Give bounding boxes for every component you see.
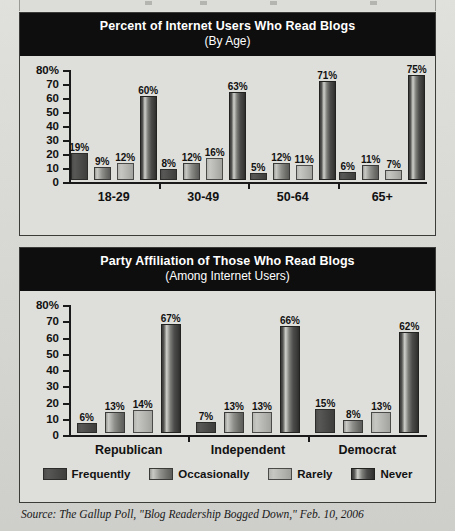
y-axis-tick xyxy=(63,321,70,323)
plot-area-age: 01020304050607080%19%9%12%60%18-298%12%1… xyxy=(20,56,435,234)
y-axis-label: 80% xyxy=(20,65,59,75)
bar-occasionally-30-49 xyxy=(183,163,200,180)
bar-value-label: 75% xyxy=(402,64,431,75)
legend-label: Occasionally xyxy=(178,468,249,480)
chart-subtitle-age: (By Age) xyxy=(24,34,431,49)
y-axis-tick xyxy=(63,98,70,100)
bar-occasionally-18-29 xyxy=(94,167,111,180)
bar-frequently-independent xyxy=(196,422,216,433)
bar-frequently-democrat xyxy=(315,409,335,433)
bar-rarely-50-64 xyxy=(296,165,313,180)
bar-occasionally-50-64 xyxy=(273,163,290,180)
bar-value-label: 11% xyxy=(290,154,319,165)
y-axis-tick xyxy=(63,182,70,184)
category-label-independent: Independent xyxy=(188,443,307,457)
bar-value-label: 14% xyxy=(127,399,159,410)
y-axis-tick xyxy=(63,154,70,156)
bar-value-label: 63% xyxy=(223,81,252,92)
y-axis-label: 60 xyxy=(20,333,59,343)
y-axis-label: 30 xyxy=(20,135,59,145)
bar-value-label: 7% xyxy=(379,159,408,170)
legend-item-frequently: Frequently xyxy=(43,468,131,480)
y-axis-tick xyxy=(63,126,70,128)
light-gray-swatch xyxy=(268,468,292,480)
y-axis-tick xyxy=(63,435,70,437)
bar-frequently-65- xyxy=(339,172,356,180)
bar-frequently-50-64 xyxy=(250,173,267,180)
bar-value-label: 60% xyxy=(134,85,163,96)
chart-subtitle-party: (Among Internet Users) xyxy=(24,269,431,284)
bar-value-label: 71% xyxy=(313,70,342,81)
x-axis-tick xyxy=(338,184,340,189)
bar-occasionally-independent xyxy=(224,412,244,433)
y-axis-label: 0 xyxy=(20,430,59,440)
bar-occasionally-republican xyxy=(105,412,125,433)
category-label-18-29: 18-29 xyxy=(69,190,159,204)
bar-value-label: 67% xyxy=(155,313,187,324)
y-axis-label: 50 xyxy=(20,349,59,359)
chart-title-party: Party Affiliation of Those Who Read Blog… xyxy=(24,254,431,269)
bar-value-label: 62% xyxy=(393,321,425,332)
y-axis-label: 10 xyxy=(20,163,59,173)
legend-label: Never xyxy=(380,468,412,480)
y-axis-label: 40 xyxy=(20,121,59,131)
x-axis-tick xyxy=(308,437,310,442)
bar-rarely-independent xyxy=(252,412,272,433)
y-axis-label: 30 xyxy=(20,381,59,391)
chart-title-age: Percent of Internet Users Who Read Blogs xyxy=(24,19,431,34)
bar-occasionally-65- xyxy=(362,165,379,180)
legend-item-rarely: Rarely xyxy=(268,468,332,480)
dark-solid-swatch xyxy=(43,468,67,480)
y-axis-label: 70 xyxy=(20,79,59,89)
bar-rarely-republican xyxy=(133,410,153,433)
category-label-30-49: 30-49 xyxy=(159,190,249,204)
legend-label: Rarely xyxy=(297,468,332,480)
y-axis-label: 40 xyxy=(20,365,59,375)
chart-title-bar-age: Percent of Internet Users Who Read Blogs… xyxy=(20,13,435,56)
bar-frequently-18-29 xyxy=(71,153,88,180)
chart-title-bar-party: Party Affiliation of Those Who Read Blog… xyxy=(20,248,435,291)
y-axis-tick xyxy=(63,168,70,170)
category-label-republican: Republican xyxy=(69,443,188,457)
bar-rarely-30-49 xyxy=(206,158,223,180)
y-axis-tick xyxy=(63,403,70,405)
y-axis-tick xyxy=(63,84,70,86)
bar-frequently-republican xyxy=(77,423,97,433)
x-axis-tick xyxy=(248,184,250,189)
chart-legend: FrequentlyOccasionallyRarelyNever xyxy=(19,468,436,480)
y-axis-label: 60 xyxy=(20,93,59,103)
bar-value-label: 16% xyxy=(200,147,229,158)
bar-value-label: 66% xyxy=(274,315,306,326)
axes-age: 01020304050607080%19%9%12%60%18-298%12%1… xyxy=(20,56,435,234)
bar-rarely-democrat xyxy=(371,412,391,433)
x-axis-line xyxy=(69,435,427,437)
bar-rarely-65- xyxy=(385,170,402,180)
y-axis-label: 50 xyxy=(20,107,59,117)
y-axis-tick xyxy=(63,370,70,372)
category-label-65-: 65+ xyxy=(338,190,428,204)
y-axis-tick xyxy=(63,386,70,388)
chart-panel-age: Percent of Internet Users Who Read Blogs… xyxy=(19,12,436,236)
bar-never-independent xyxy=(280,326,300,433)
legend-label: Frequently xyxy=(72,468,131,480)
bar-frequently-30-49 xyxy=(160,169,177,180)
figure-page: Percent of Internet Users Who Read Blogs… xyxy=(0,0,455,531)
bar-value-label: 19% xyxy=(65,142,94,153)
y-axis-tick xyxy=(63,419,70,421)
bar-value-label: 15% xyxy=(309,398,341,409)
cylinder-dark-swatch xyxy=(351,468,375,480)
chart-panel-party: Party Affiliation of Those Who Read Blog… xyxy=(19,247,436,503)
bar-value-label: 6% xyxy=(71,412,103,423)
source-note: Source: The Gallup Poll, "Blog Readershi… xyxy=(21,508,441,520)
gradient-swatch xyxy=(149,468,173,480)
y-axis-tick xyxy=(63,70,70,72)
bar-value-label: 7% xyxy=(190,411,222,422)
bar-occasionally-democrat xyxy=(343,420,363,433)
bar-value-label: 13% xyxy=(365,401,397,412)
bar-rarely-18-29 xyxy=(117,163,134,180)
bar-value-label: 5% xyxy=(244,162,273,173)
page-top-artifact xyxy=(19,0,436,11)
x-axis-tick xyxy=(188,437,190,442)
bar-value-label: 13% xyxy=(246,401,278,412)
category-label-50-64: 50-64 xyxy=(248,190,338,204)
